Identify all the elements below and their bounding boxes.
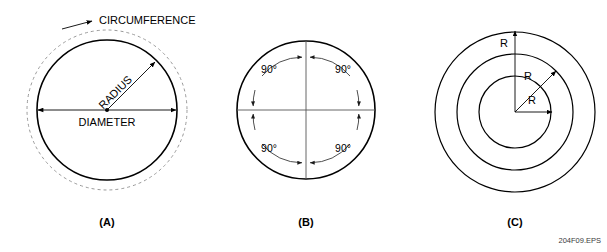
radius-label: RADIUS: [96, 73, 134, 111]
quadrant-arc-bottom-left-upper: [253, 114, 255, 130]
panel-a: CIRCUMFERENCE RADIUS DIAMETER (A): [27, 14, 196, 228]
panel-c: R R R (C): [435, 31, 595, 228]
radius-label-middle-c: R: [524, 70, 532, 82]
quadrant-arc-bottom-right-upper: [357, 114, 359, 130]
quadrant-label-bottom-right: 90°: [335, 142, 351, 154]
source-reference-label: 204F09.EPS: [558, 236, 601, 245]
circumference-leader-arrow: [62, 21, 92, 29]
quadrant-arc-top-right-lower: [357, 90, 359, 106]
caption-b: (B): [298, 216, 314, 228]
panel-b: 90° 90° 90° 90° (B): [237, 41, 375, 228]
diameter-label: DIAMETER: [79, 116, 136, 128]
circumference-label: CIRCUMFERENCE: [99, 14, 196, 26]
quadrant-label-top-left: 90°: [261, 63, 277, 75]
center-point-a: [105, 108, 109, 112]
radius-label-inner-c: R: [528, 94, 536, 106]
radius-label-outer-c: R: [500, 37, 508, 49]
quadrant-label-bottom-left: 90°: [261, 142, 277, 154]
circle-terminology-diagram: CIRCUMFERENCE RADIUS DIAMETER (A) 90° 90…: [0, 0, 607, 252]
caption-a: (A): [99, 216, 115, 228]
quadrant-arc-top-left-lower: [253, 90, 255, 106]
caption-c: (C): [507, 216, 523, 228]
quadrant-label-top-right: 90°: [335, 63, 351, 75]
figure-container: CIRCUMFERENCE RADIUS DIAMETER (A) 90° 90…: [0, 0, 607, 252]
